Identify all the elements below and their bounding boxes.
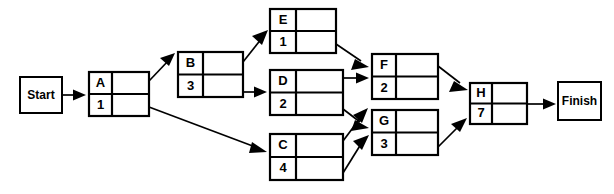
node-finish-label: Finish	[562, 94, 597, 108]
node-h-name: H	[476, 85, 485, 100]
node-f-duration: 2	[380, 80, 387, 95]
node-e-duration: 1	[279, 34, 286, 49]
edge-c-to-f	[343, 108, 368, 141]
node-b-duration: 3	[187, 78, 194, 93]
node-d-name: D	[278, 73, 287, 88]
edge-e-to-f	[336, 44, 369, 70]
arrowhead	[160, 53, 175, 66]
node-finish[interactable]: Finish	[558, 82, 601, 120]
edge-b-to-e	[243, 30, 268, 62]
arrowhead	[252, 30, 268, 45]
edge-b-to-d	[243, 87, 267, 98]
edge-line	[438, 126, 459, 147]
edge-c-to-g	[343, 135, 369, 173]
edge-a-to-c	[149, 107, 267, 153]
node-g-name: G	[379, 113, 389, 128]
node-b-name: B	[186, 55, 195, 70]
node-e[interactable]: E 1	[270, 9, 336, 53]
edge-g-to-h	[438, 118, 467, 147]
node-a-name: A	[96, 75, 106, 90]
node-h-duration: 7	[477, 105, 484, 120]
edge-line	[438, 66, 460, 83]
arrowhead	[254, 87, 267, 98]
edge-line	[149, 107, 258, 148]
edge-a-to-b	[149, 53, 175, 81]
arrowhead	[249, 142, 267, 153]
node-e-name: E	[279, 12, 288, 27]
edge-d-to-f	[343, 73, 369, 84]
node-f[interactable]: F 2	[372, 54, 438, 99]
edge-f-to-h	[438, 66, 468, 92]
node-f-name: F	[380, 57, 388, 72]
edge-h-to-finish	[527, 99, 556, 110]
node-d-duration: 2	[279, 96, 286, 111]
node-g[interactable]: G 3	[372, 110, 438, 155]
node-c-duration: 4	[279, 160, 287, 175]
node-start-label: Start	[27, 88, 54, 102]
node-b[interactable]: B 3	[178, 52, 243, 97]
edge-line	[336, 44, 361, 61]
node-h[interactable]: H 7	[470, 83, 527, 124]
node-c[interactable]: C 4	[270, 134, 343, 180]
node-c-name: C	[278, 137, 288, 152]
network-diagram-svg: Start A 1 B 3 E 1	[0, 0, 614, 194]
node-g-duration: 3	[380, 136, 387, 151]
node-d[interactable]: D 2	[270, 70, 343, 115]
network-diagram-canvas: Start A 1 B 3 E 1	[0, 0, 614, 194]
arrowhead	[73, 90, 86, 101]
arrowhead	[543, 99, 556, 110]
arrowhead	[356, 73, 369, 84]
edge-line	[343, 144, 361, 173]
arrowhead	[353, 135, 369, 150]
arrowhead	[451, 118, 467, 132]
node-start[interactable]: Start	[20, 77, 62, 113]
edge-start-to-a	[62, 90, 86, 101]
node-a[interactable]: A 1	[89, 72, 149, 116]
node-a-duration: 1	[97, 97, 104, 112]
